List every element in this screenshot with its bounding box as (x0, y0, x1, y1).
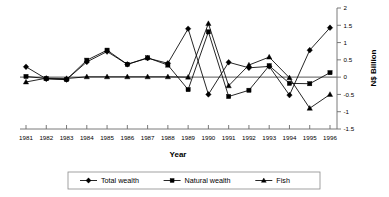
x-axis-title: Year (170, 150, 187, 159)
x-tick-label: 1985 (100, 134, 114, 141)
x-tick-label: 1996 (323, 134, 337, 141)
x-tick-label: 1983 (60, 134, 74, 141)
series-natural-wealth (24, 30, 332, 99)
y-tick-label: -1 (344, 108, 350, 115)
y-tick-label: 1 (344, 39, 348, 46)
marker-square (170, 179, 174, 183)
x-tick-label: 1995 (303, 134, 317, 141)
marker-diamond (226, 59, 231, 65)
series-fish (23, 21, 332, 110)
marker-square (227, 94, 231, 98)
x-tick-label: 1987 (141, 134, 155, 141)
marker-square (105, 48, 109, 52)
x-tick-label: 1984 (80, 134, 94, 141)
marker-square (166, 63, 170, 67)
marker-square (145, 56, 149, 60)
y-tick-label: 2 (344, 4, 348, 11)
marker-square (328, 71, 332, 75)
legend-item-label: Natural wealth (185, 176, 231, 185)
legend-item-natural-wealth[interactable]: Natural wealth (164, 176, 231, 185)
marker-square (125, 62, 129, 66)
x-tick-label: 1981 (19, 134, 33, 141)
marker-diamond (206, 92, 211, 98)
marker-square (287, 81, 291, 85)
chart-container: 1981198219831984198519861987198819891990… (0, 0, 389, 197)
marker-square (24, 74, 28, 78)
x-tick-label: 1982 (39, 134, 53, 141)
x-tick-label: 1994 (283, 134, 297, 141)
series-line (26, 24, 330, 109)
x-tick-label: 1990 (202, 134, 216, 141)
marker-triangle (206, 21, 211, 26)
marker-diamond (23, 64, 28, 70)
y-tick-label: 1.5 (344, 22, 353, 29)
series-line (26, 28, 330, 95)
y-axis-title: N$ Billion (369, 49, 378, 86)
y-tick-label: 0.5 (344, 56, 353, 63)
y-tick-label: -0.5 (344, 91, 355, 98)
series-total-wealth (23, 25, 332, 98)
marker-square (85, 58, 89, 62)
marker-triangle (327, 92, 332, 97)
marker-square (186, 87, 190, 91)
marker-square (267, 64, 271, 68)
legend-item-label: Total wealth (101, 176, 139, 185)
marker-square (247, 88, 251, 92)
legend: Total wealthNatural wealthFish (68, 172, 320, 189)
x-tick-label: 1991 (222, 134, 236, 141)
legend-item-label: Fish (276, 176, 290, 185)
x-tick-label: 1989 (181, 134, 195, 141)
marker-diamond (86, 178, 91, 183)
legend-item-fish[interactable]: Fish (255, 176, 290, 185)
marker-square (308, 82, 312, 86)
y-tick-label: -1.5 (344, 125, 355, 132)
series-line (26, 32, 330, 97)
x-tick-label: 1992 (242, 134, 256, 141)
y-tick-label: 0 (344, 73, 348, 80)
legend-item-total-wealth[interactable]: Total wealth (80, 176, 139, 185)
x-tick-label: 1993 (262, 134, 276, 141)
marker-diamond (185, 26, 190, 32)
line-chart: 1981198219831984198519861987198819891990… (0, 0, 389, 197)
x-tick-label: 1988 (161, 134, 175, 141)
marker-square (206, 30, 210, 34)
axes-group: 1981198219831984198519861987198819891990… (19, 4, 355, 141)
x-tick-label: 1986 (120, 134, 134, 141)
marker-triangle (267, 54, 272, 59)
